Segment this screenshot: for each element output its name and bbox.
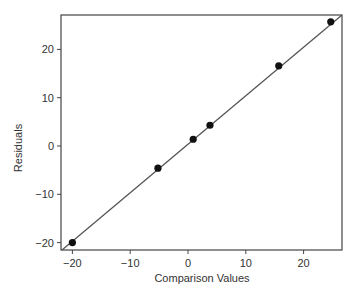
x-tick-label: 0 — [185, 257, 191, 269]
data-point — [327, 18, 334, 25]
scatter-chart: −20−1001020 −20−1001020 Comparison Value… — [0, 0, 358, 296]
data-point — [69, 239, 76, 246]
x-tick-label: 20 — [297, 257, 309, 269]
identity-line — [62, 15, 342, 250]
x-tick-label: −20 — [63, 257, 82, 269]
y-tick-label: 10 — [42, 92, 54, 104]
data-point — [275, 62, 282, 69]
y-tick-label: 20 — [42, 43, 54, 55]
data-point — [206, 122, 213, 129]
x-axis-label: Comparison Values — [154, 272, 250, 284]
x-tick-label: −10 — [121, 257, 140, 269]
y-axis-label: Residuals — [12, 123, 24, 172]
x-tick-label: 10 — [240, 257, 252, 269]
reference-line — [62, 15, 342, 250]
x-axis-ticks: −20−1001020 — [63, 250, 310, 269]
y-tick-label: −10 — [35, 188, 54, 200]
y-axis-ticks: −20−1001020 — [35, 43, 61, 248]
data-point — [154, 165, 161, 172]
y-tick-label: −20 — [35, 237, 54, 249]
data-point — [190, 136, 197, 143]
y-tick-label: 0 — [48, 140, 54, 152]
